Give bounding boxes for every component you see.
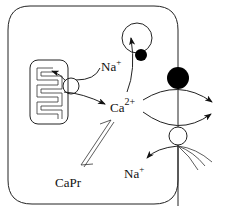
- na-top-label: Na+: [101, 57, 121, 74]
- exchanger-na-arrow: [147, 146, 178, 158]
- exchanger-na-curves: [178, 146, 212, 170]
- exchanger-ca-arrow: [143, 112, 211, 126]
- calcium-transport-diagram: Na+ Ca2+ CaPr Na+: [0, 0, 227, 211]
- capr-label: CaPr: [55, 175, 82, 190]
- na-pump-arrow: [127, 38, 133, 92]
- cell-membrane: [8, 6, 178, 204]
- capr-binding-arrow: [81, 120, 114, 167]
- na-pump-vesicle: [122, 23, 152, 53]
- ca-pump: [167, 67, 189, 89]
- ca-label: Ca2+: [110, 96, 135, 115]
- na-bottom-label: Na+: [124, 164, 144, 181]
- mitochondrion: [30, 60, 68, 124]
- na-to-mito-line: [76, 68, 100, 80]
- na-pump-dot: [135, 49, 147, 61]
- na-ca-exchanger: [169, 127, 187, 145]
